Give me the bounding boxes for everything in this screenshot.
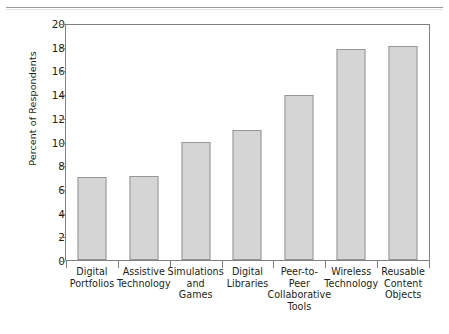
bar-slot bbox=[273, 25, 325, 260]
x-axis-category-label-line: Tools bbox=[267, 301, 331, 313]
bar-slot bbox=[170, 25, 222, 260]
bar bbox=[233, 130, 262, 260]
y-axis-ticks: 02468101214161820 bbox=[0, 0, 65, 334]
x-axis-category-label-line: Objects bbox=[371, 289, 435, 301]
x-axis-category-label-line: Collaborative bbox=[267, 289, 331, 301]
bar bbox=[77, 177, 106, 260]
y-tick-mark bbox=[59, 261, 65, 262]
bar-slot bbox=[325, 25, 377, 260]
bar-slot bbox=[377, 25, 429, 260]
bar-slot bbox=[222, 25, 274, 260]
x-axis-category-label-line: Content bbox=[371, 278, 435, 290]
bar bbox=[181, 142, 210, 261]
x-axis-category-label: ReusableContentObjects bbox=[371, 266, 435, 301]
bar-series bbox=[66, 25, 429, 260]
bar bbox=[389, 46, 418, 260]
bar bbox=[337, 49, 366, 260]
bar bbox=[285, 95, 314, 260]
bar-slot bbox=[66, 25, 118, 260]
bar-chart-figure: Percent of Respondents 02468101214161820… bbox=[0, 0, 449, 334]
bar bbox=[129, 176, 158, 260]
x-axis-category-label-line: Games bbox=[164, 289, 228, 301]
x-axis-category-label-line: Reusable bbox=[371, 266, 435, 278]
bar-slot bbox=[118, 25, 170, 260]
